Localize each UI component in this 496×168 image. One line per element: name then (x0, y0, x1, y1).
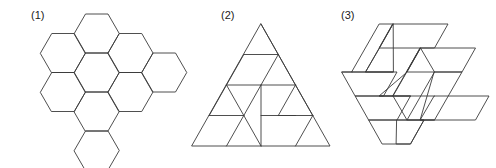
trapezoid-piece (393, 48, 435, 120)
trapezoid-piece (397, 120, 425, 144)
figure-canvas: (1) (2) (3) (0, 0, 496, 168)
figure-1-label: (1) (31, 9, 44, 21)
figure-3-label: (3) (341, 9, 354, 21)
figure-3-trapezoids (0, 0, 496, 168)
figure-2-label: (2) (221, 9, 234, 21)
figure-3-trapezoid-group (342, 24, 489, 144)
trapezoid-piece (356, 96, 411, 120)
trapezoid-piece (407, 48, 476, 72)
trapezoid-piece (421, 96, 490, 120)
trapezoid-piece (380, 24, 449, 48)
figure-3-svg (0, 0, 496, 168)
trapezoid-piece (342, 72, 397, 96)
